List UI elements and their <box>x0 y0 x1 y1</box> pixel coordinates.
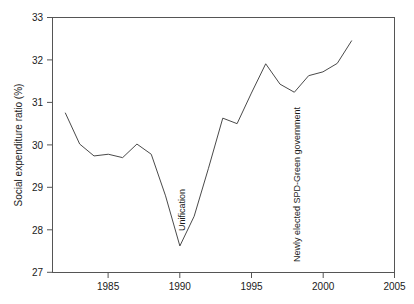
y-tick-label-32: 32 <box>32 55 44 66</box>
x-tick-label-1995: 1995 <box>240 281 263 292</box>
x-tick-label-1985: 1985 <box>97 281 120 292</box>
x-tick-label-2000: 2000 <box>312 281 335 292</box>
x-axis-ticks: 1985 1990 1995 2000 2005 <box>97 273 406 293</box>
y-tick-label-29: 29 <box>32 182 44 193</box>
line-chart: Social expenditure ratio (%) 27 28 29 30… <box>0 0 414 304</box>
x-tick-label-1990: 1990 <box>169 281 192 292</box>
y-axis-ticks: 27 28 29 30 31 32 33 <box>32 12 53 278</box>
y-tick-label-27: 27 <box>32 267 44 278</box>
annotation-unification: Unification <box>177 189 187 231</box>
y-tick-label-33: 33 <box>32 12 44 23</box>
annotation-spd-green-government: Newly elected SPD-Green government <box>292 106 302 262</box>
y-tick-label-30: 30 <box>32 140 44 151</box>
y-axis-label: Social expenditure ratio (%) <box>13 84 24 207</box>
y-tick-label-31: 31 <box>32 97 44 108</box>
chart-container: Social expenditure ratio (%) 27 28 29 30… <box>0 0 414 304</box>
plot-frame <box>53 18 395 273</box>
data-line-social-expenditure-ratio <box>65 41 351 246</box>
x-tick-label-2005: 2005 <box>383 281 406 292</box>
y-tick-label-28: 28 <box>32 225 44 236</box>
